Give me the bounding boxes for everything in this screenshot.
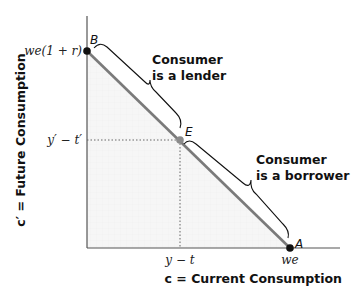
x-mark-label: y − t (164, 253, 194, 267)
point-b (83, 47, 91, 55)
y-mark-label: y′ − t′ (46, 133, 82, 147)
label-e: E (185, 125, 193, 139)
x-intercept-label: we (281, 253, 298, 267)
budget-constraint-diagram: B E A we(1 + r) y′ − t′ y − t we Consume… (0, 0, 355, 289)
borrower-text-1: Consumer (256, 152, 328, 167)
y-axis-title: c′ = Future Consumption (13, 53, 28, 226)
point-a (286, 244, 294, 252)
point-e (176, 136, 184, 144)
borrower-text-2: is a borrower (256, 168, 350, 183)
label-b: B (90, 33, 98, 47)
x-axis-title: c = Current Consumption (165, 271, 342, 286)
y-intercept-label: we(1 + r) (24, 44, 82, 58)
lender-text-2: is a lender (152, 68, 227, 83)
lender-text-1: Consumer (152, 52, 224, 67)
label-a: A (294, 237, 303, 251)
